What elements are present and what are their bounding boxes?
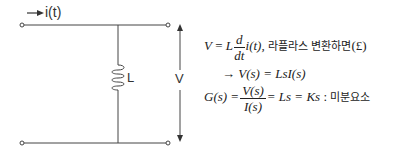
right-arrow-icon: →	[222, 66, 235, 81]
inductor-label: L	[127, 70, 134, 85]
voltage-arrow-up-icon	[177, 24, 183, 31]
inductor-coil-icon	[112, 65, 124, 90]
voltage-label: V	[175, 71, 184, 86]
equation-line-1: V = Lddti(t), 라플라스 변환하면(£)	[204, 33, 367, 62]
current-label: i(t)	[45, 4, 61, 20]
transfer-fraction: V(s)I(s)	[240, 84, 266, 113]
voltage-arrow-down-icon	[177, 135, 183, 142]
circuit-diagram	[0, 0, 200, 154]
equation-line-2: → V(s) = LsI(s)	[222, 66, 306, 82]
terminal-top-left	[20, 23, 24, 27]
terminal-top-right	[166, 23, 170, 27]
derivative-fraction: ddt	[234, 33, 245, 62]
terminal-bottom-right	[166, 141, 170, 145]
equation-line-3: G(s) =V(s)I(s)= Ls = Ks : 미분요소	[204, 84, 370, 113]
terminal-bottom-left	[20, 141, 24, 145]
